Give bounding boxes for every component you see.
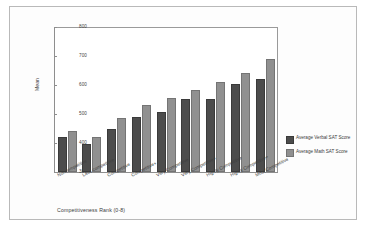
legend-item[interactable]: Average Verbal SAT Score bbox=[286, 135, 358, 144]
bar-group bbox=[107, 27, 129, 172]
bar-math[interactable] bbox=[142, 105, 151, 172]
bar-math[interactable] bbox=[241, 73, 250, 172]
bar-group bbox=[231, 27, 253, 172]
bar-group bbox=[58, 27, 80, 172]
bar-group bbox=[82, 27, 104, 172]
bar-math[interactable] bbox=[167, 98, 176, 172]
y-axis-title: Mean bbox=[34, 78, 40, 91]
chart-legend: Average Verbal SAT ScoreAverage Math SAT… bbox=[286, 135, 358, 162]
bar-verbal[interactable] bbox=[58, 137, 67, 172]
bar-math[interactable] bbox=[216, 82, 225, 172]
bar-verbal[interactable] bbox=[132, 117, 141, 172]
legend-item[interactable]: Average Math SAT Score bbox=[286, 149, 358, 158]
bar-verbal[interactable] bbox=[157, 112, 166, 172]
legend-color-swatch bbox=[286, 149, 294, 157]
bar-group bbox=[157, 27, 179, 172]
legend-label: Average Math SAT Score bbox=[296, 149, 354, 156]
bars-layer bbox=[55, 27, 278, 172]
x-axis-title: Competitiveness Rank (0-8) bbox=[57, 207, 125, 213]
bar-group bbox=[256, 27, 278, 172]
bar-group bbox=[132, 27, 154, 172]
legend-label: Average Verbal SAT Score bbox=[296, 135, 354, 142]
legend-color-swatch bbox=[286, 136, 294, 144]
bar-group bbox=[181, 27, 203, 172]
bar-group bbox=[206, 27, 228, 172]
chart-frame: 800700600500400300 NoncompetitiveLess co… bbox=[9, 6, 357, 220]
bar-math[interactable] bbox=[191, 90, 200, 172]
